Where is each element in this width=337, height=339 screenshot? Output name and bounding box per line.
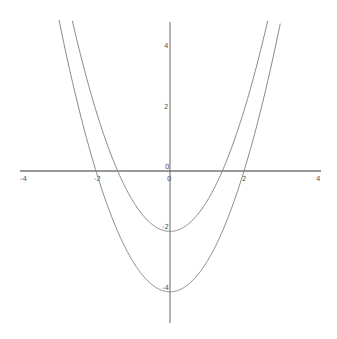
origin-label-lower: 0 <box>167 175 171 183</box>
y-tick-label: 2 <box>164 103 168 111</box>
origin-label-upper: 0 <box>165 163 169 171</box>
y-tick-label: 4 <box>164 42 169 50</box>
function-plot: -4-224 42-2-4 0 0 <box>0 0 337 339</box>
x-tick-label: 4 <box>316 175 321 183</box>
x-tick-label: -4 <box>20 175 28 183</box>
